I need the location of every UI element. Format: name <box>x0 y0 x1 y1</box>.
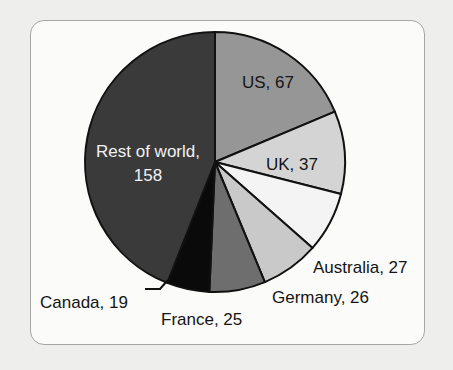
slice-label-france: France, 25 <box>161 310 242 329</box>
pie-chart-figure: US, 67 UK, 37 Australia, 27 Germany, 26 … <box>0 0 453 370</box>
slice-label-rest-of-world: Rest of world, <box>96 142 200 161</box>
slice-label-germany: Germany, 26 <box>272 288 369 307</box>
slice-label-australia: Australia, 27 <box>313 258 408 277</box>
slice-label-uk: UK, 37 <box>266 155 318 174</box>
pie-chart-svg: US, 67 UK, 37 Australia, 27 Germany, 26 … <box>0 0 453 370</box>
slice-label-us: US, 67 <box>242 73 294 92</box>
slice-label-canada: Canada, 19 <box>40 293 128 312</box>
slice-label-rest-of-world-value: 158 <box>134 166 162 185</box>
